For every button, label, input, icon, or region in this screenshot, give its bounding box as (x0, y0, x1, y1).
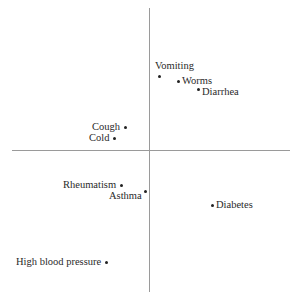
point-label: Cold (89, 132, 109, 143)
data-point (197, 88, 200, 91)
point-label: Rheumatism (63, 179, 116, 190)
point-label: Diabetes (216, 199, 253, 210)
point-label: Worms (182, 75, 212, 86)
x-axis (12, 150, 290, 151)
scatter-plot: VomitingWormsDiarrheaCoughColdRheumatism… (0, 0, 299, 296)
data-point (144, 190, 147, 193)
point-label: Diarrhea (202, 86, 239, 97)
point-label: Vomiting (155, 60, 194, 71)
data-point (120, 184, 123, 187)
point-label: Cough (92, 121, 120, 132)
data-point (177, 80, 180, 83)
y-axis (149, 8, 150, 292)
point-label: High blood pressure (16, 256, 101, 267)
data-point (158, 75, 161, 78)
data-point (124, 126, 127, 129)
data-point (105, 261, 108, 264)
data-point (211, 204, 214, 207)
data-point (113, 137, 116, 140)
point-label: Asthma (109, 190, 142, 201)
